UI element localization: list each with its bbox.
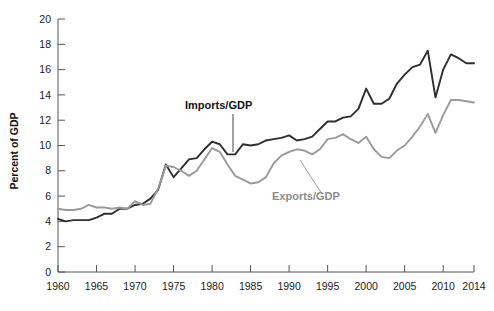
x-axis-tick-label: 1960: [46, 280, 70, 292]
imports-exports-gdp-line-chart: 02468101214161820 1960196519701975198019…: [0, 0, 494, 311]
x-axis-tick-label: 1970: [123, 280, 147, 292]
series-annotation-label: Imports/GDP: [185, 99, 252, 111]
y-axis-tick-label: 6: [45, 190, 51, 202]
x-axis-tick-label: 1980: [200, 280, 224, 292]
y-axis-tick-label: 12: [39, 114, 51, 126]
x-axis-tick-label: 2010: [432, 280, 456, 292]
chart-container: 02468101214161820 1960196519701975198019…: [0, 0, 494, 311]
y-axis-title: Percent of GDP: [8, 112, 20, 189]
chart-background: [0, 0, 494, 311]
y-axis-tick-label: 2: [45, 240, 51, 252]
y-axis-tick-label: 10: [39, 139, 51, 151]
x-axis-tick-label: 2000: [354, 280, 378, 292]
x-axis-tick-label: 2005: [393, 280, 417, 292]
x-axis-tick-label: 1995: [316, 280, 340, 292]
y-axis-tick-label: 16: [39, 63, 51, 75]
y-axis-tick-label: 4: [45, 215, 51, 227]
series-annotation-label: Exports/GDP: [272, 190, 340, 202]
y-axis-tick-label: 14: [39, 89, 51, 101]
x-axis-tick-label: 2014: [462, 280, 486, 292]
y-axis-tick-label: 8: [45, 164, 51, 176]
x-axis-tick-label: 1985: [239, 280, 263, 292]
x-axis-tick-label: 1965: [85, 280, 109, 292]
y-axis-tick-label: 18: [39, 38, 51, 50]
x-axis-tick-label: 1975: [162, 280, 186, 292]
y-axis-tick-label: 0: [45, 266, 51, 278]
y-axis-tick-label: 20: [39, 13, 51, 25]
x-axis-tick-label: 1990: [277, 280, 301, 292]
